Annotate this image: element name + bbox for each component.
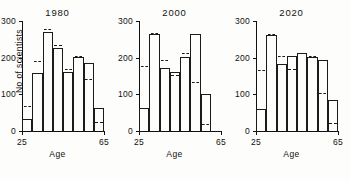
histogram-bar <box>190 34 200 132</box>
y-axis-tick: 300 <box>253 21 257 22</box>
x-axis-label: Age <box>117 149 232 159</box>
reference-mark <box>24 106 31 107</box>
reference-mark <box>75 56 82 57</box>
y-axis-tick: 300 <box>136 21 140 22</box>
x-axis-tick-label: 65 <box>216 137 226 147</box>
reference-mark <box>202 124 209 125</box>
reference-mark <box>65 69 72 70</box>
x-axis-tick: 65 <box>221 131 222 135</box>
y-axis-tick: 200 <box>19 58 23 59</box>
y-axis-tick: 100 <box>19 94 23 95</box>
y-axis-tick-label: 200 <box>118 53 133 63</box>
y-axis-tick: 200 <box>136 58 140 59</box>
x-axis-tick-label: 25 <box>17 137 27 147</box>
histogram-bar <box>307 57 317 132</box>
histogram-bar <box>63 72 73 132</box>
reference-mark <box>141 66 148 67</box>
reference-mark <box>309 56 316 57</box>
reference-mark <box>268 34 275 35</box>
reference-mark <box>288 69 295 70</box>
histogram-bar <box>160 68 170 132</box>
x-axis-label: Age <box>0 149 115 159</box>
y-axis-tick-label: 200 <box>235 53 250 63</box>
histogram-bar <box>53 48 63 132</box>
reference-mark <box>34 61 41 62</box>
x-axis-tick-label: 65 <box>99 137 109 147</box>
y-axis-tick-label: 300 <box>1 16 16 26</box>
reference-mark <box>95 122 102 123</box>
reference-mark <box>161 60 168 61</box>
reference-mark <box>44 29 51 30</box>
histogram-bar <box>32 73 42 132</box>
histogram-bar <box>180 57 190 132</box>
histogram-bar <box>297 53 307 132</box>
reference-mark <box>192 82 199 83</box>
histogram-bar <box>266 35 276 132</box>
y-axis-tick-label: 0 <box>11 126 16 136</box>
histogram-bar <box>201 94 211 133</box>
histogram-bar <box>84 63 94 132</box>
panel-title: 1980 <box>0 7 115 18</box>
x-axis-tick-label: 25 <box>134 137 144 147</box>
histogram-bar <box>328 100 338 132</box>
panel-title: 2000 <box>117 7 232 18</box>
histogram-bar <box>277 64 287 132</box>
reference-mark <box>258 70 265 71</box>
y-axis-tick: 300 <box>19 21 23 22</box>
y-axis-tick-label: 100 <box>1 89 16 99</box>
reference-mark <box>329 123 336 124</box>
histogram-bar <box>22 119 32 132</box>
histogram-bar <box>256 109 266 132</box>
panel-title: 2020 <box>234 7 349 18</box>
reference-mark <box>54 45 61 46</box>
panel-1980: 1980 01002003002565 Age <box>0 0 115 181</box>
reference-mark <box>182 53 189 54</box>
x-axis-tick-label: 25 <box>251 137 261 147</box>
y-axis-tick-label: 100 <box>235 89 250 99</box>
y-axis-tick: 100 <box>253 94 257 95</box>
x-axis-label: Age <box>234 149 349 159</box>
figure-container: No of scientists 1980 01002003002565 Age… <box>0 0 350 181</box>
panel-2020: 2020 01002003002565 Age <box>234 0 349 181</box>
x-axis-tick-label: 65 <box>333 137 343 147</box>
reference-mark <box>151 33 158 34</box>
y-axis-tick: 200 <box>253 58 257 59</box>
plot-area: 01002003002565 <box>139 22 221 132</box>
histogram-bar <box>170 72 180 133</box>
reference-mark <box>171 75 178 76</box>
histogram-bar <box>43 32 53 132</box>
histogram-bar <box>318 60 328 132</box>
y-axis-tick-label: 0 <box>245 126 250 136</box>
histogram-bar <box>73 57 83 132</box>
histogram-bar <box>287 56 297 132</box>
x-axis-tick: 65 <box>338 131 339 135</box>
histogram-bar <box>149 34 159 132</box>
y-axis-tick-label: 100 <box>118 89 133 99</box>
histogram-bar <box>94 108 104 132</box>
y-axis-tick-label: 300 <box>235 16 250 26</box>
y-axis-tick: 100 <box>136 94 140 95</box>
reference-mark <box>299 53 306 54</box>
reference-mark <box>319 93 326 94</box>
plot-area: 01002003002565 <box>22 22 104 132</box>
y-axis <box>22 22 23 132</box>
y-axis-tick-label: 0 <box>128 126 133 136</box>
panel-2000: 2000 01002003002565 Age <box>117 0 232 181</box>
plot-area: 01002003002565 <box>256 22 338 132</box>
y-axis-tick-label: 200 <box>1 53 16 63</box>
reference-mark <box>85 79 92 80</box>
x-axis-tick: 65 <box>104 131 105 135</box>
reference-mark <box>278 56 285 57</box>
y-axis-tick-label: 300 <box>118 16 133 26</box>
histogram-bar <box>139 108 149 132</box>
